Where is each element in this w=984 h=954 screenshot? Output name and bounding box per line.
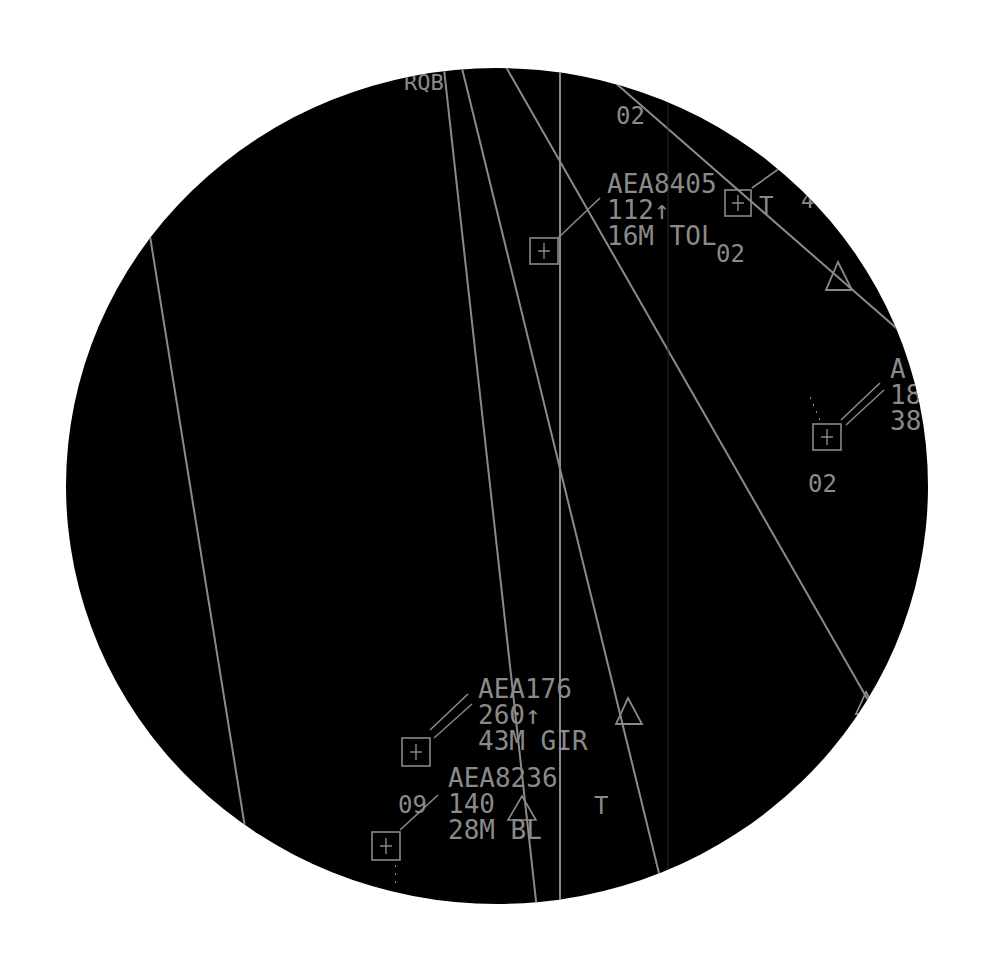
track-info: 43M GIR xyxy=(478,726,588,756)
fix-label: RQB xyxy=(404,70,444,95)
track-info: 38 xyxy=(890,406,921,436)
radar-scope[interactable]: RQB 02 AEA8405 112↑ 16M TOL 02 T 4 A 18 … xyxy=(0,0,984,954)
track-extra: 02 xyxy=(716,240,745,268)
track-extra: 09 xyxy=(398,791,427,819)
altitude-label: 02 xyxy=(616,102,645,130)
t-marker: T xyxy=(594,792,608,820)
track-info: 28M BL xyxy=(448,815,542,845)
track-info: 16M TOL xyxy=(607,221,717,251)
t-marker: T xyxy=(759,192,773,220)
track-extra: 02 xyxy=(808,470,837,498)
edge-label: 4 xyxy=(801,188,814,213)
